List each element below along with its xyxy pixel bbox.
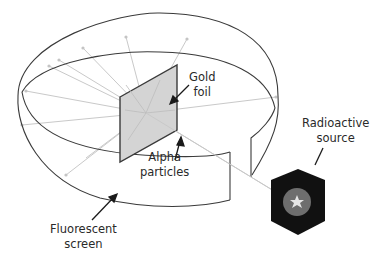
gold-foil-label: Gold foil: [189, 70, 215, 100]
alpha-particles-label: Alpha particles: [140, 150, 189, 180]
alpha-particles-label-line2: particles: [140, 165, 189, 180]
fluorescent-screen-label-line1: Fluorescent: [50, 222, 117, 237]
gold-foil-experiment-diagram: Gold foil Alpha particles Radioactive so…: [0, 0, 383, 269]
alpha-particles-label-line1: Alpha: [140, 150, 189, 165]
radioactive-source-label-line2: source: [302, 131, 369, 146]
radioactive-source-label: Radioactive source: [302, 116, 369, 146]
gold-foil: [120, 65, 177, 162]
fluorescent-screen-label-line2: screen: [50, 237, 117, 252]
radioactive-source-label-line1: Radioactive: [302, 116, 369, 131]
gold-foil-label-line1: Gold: [189, 70, 215, 85]
fluorescent-screen-label: Fluorescent screen: [50, 222, 117, 252]
gold-foil-label-line2: foil: [189, 85, 215, 100]
